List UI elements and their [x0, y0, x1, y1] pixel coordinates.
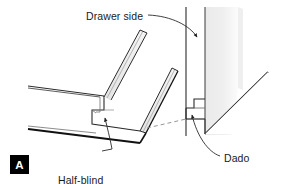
drawer-side-board-group — [104, 30, 147, 100]
label-half-blind-rabbet-line1: Half-blind — [58, 174, 103, 184]
second-board-right-edge — [146, 71, 178, 133]
half-blind-rabbet-group — [92, 96, 140, 131]
drawer-front-bottom-heavy-edge — [28, 129, 140, 143]
half-blind-rabbet-leader-line — [105, 118, 112, 149]
dado-notch-outline — [186, 99, 205, 108]
dado-notch-group — [186, 99, 205, 134]
drawer-bottom-heavy-edge — [140, 133, 146, 143]
rabbet-step-outline — [92, 96, 140, 131]
drawer-front-top-back-edge — [28, 88, 100, 97]
panel-letter-badge: A — [10, 155, 29, 174]
drawer-side-board-mid-edge — [107, 31, 143, 98]
woodworking-joint-figure: Drawer side Dado Half-blind rabbet A — [0, 0, 284, 184]
label-drawer-side: Drawer side — [86, 10, 143, 23]
cabinet-panel-right-shading — [238, 7, 243, 90]
cabinet-panel-group — [186, 7, 268, 136]
second-board-left-edge — [140, 68, 172, 131]
drawer-side-board-second-group — [140, 68, 178, 143]
drawer-front-board-group — [28, 86, 140, 143]
half-blind-rabbet-leader-stub — [102, 149, 112, 151]
drawer-side-board-right-edge — [111, 33, 147, 100]
label-half-blind-rabbet: Half-blind rabbet — [58, 149, 103, 184]
leader-lines-group — [102, 15, 220, 156]
drawer-side-board-face — [104, 30, 147, 100]
drawer-side-leader-line — [148, 15, 197, 37]
drawer-side-board-left-edge — [104, 30, 140, 97]
label-dado: Dado — [224, 152, 250, 165]
drawer-front-top-face-edge — [28, 86, 104, 96]
